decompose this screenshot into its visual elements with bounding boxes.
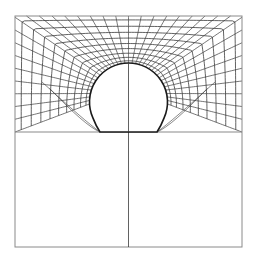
mesh-line xyxy=(15,81,91,90)
mesh-line xyxy=(164,68,242,87)
mesh-line xyxy=(167,97,242,107)
mesh-line xyxy=(15,56,94,84)
mesh-line xyxy=(15,43,96,81)
mesh-line xyxy=(90,16,118,64)
mesh-figure xyxy=(0,0,255,258)
mesh-line xyxy=(154,16,230,73)
mesh-line xyxy=(15,68,93,87)
mesh-line xyxy=(132,16,141,63)
mesh-line xyxy=(27,16,103,73)
mesh-line xyxy=(166,81,242,90)
mesh-line xyxy=(139,16,167,64)
mesh-diagram xyxy=(0,0,255,258)
mesh-line xyxy=(15,97,90,107)
mesh-line xyxy=(103,16,122,64)
mesh-line xyxy=(52,16,108,69)
mesh-line xyxy=(149,16,205,69)
mesh-line xyxy=(15,104,90,132)
mesh-line xyxy=(116,16,125,63)
mesh-line xyxy=(167,104,242,132)
mesh-line xyxy=(161,43,242,81)
mesh-line xyxy=(163,56,242,84)
mesh-line xyxy=(135,16,154,64)
